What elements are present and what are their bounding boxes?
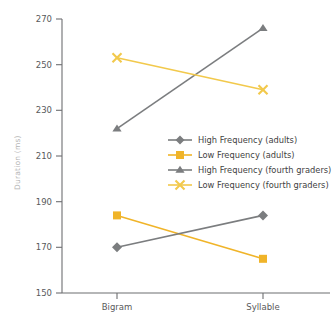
legend-marker-square-icon	[176, 151, 184, 159]
y-tick-label-210: 210	[36, 151, 52, 161]
y-tick-label-190: 190	[36, 197, 52, 207]
series-high-frequency-fourth-graders	[112, 24, 267, 132]
legend-label-lf-fourth: Low Frequency (fourth graders)	[198, 180, 329, 190]
legend-label-hf-fourth: High Frequency (fourth graders)	[198, 165, 331, 175]
series-line-hf-adults	[117, 215, 263, 247]
marker-diamond-syllable-hf-adults	[258, 210, 268, 220]
legend-marker-diamond-icon	[176, 136, 185, 145]
y-tick-label-150: 150	[36, 288, 52, 298]
series-low-frequency-fourth-graders	[113, 53, 268, 94]
legend-label-lf-adults: Low Frequency (adults)	[198, 150, 294, 160]
y-tick-label-170: 170	[36, 242, 52, 252]
legend-label-hf-adults: High Frequency (adults)	[198, 135, 297, 145]
x-label-bigram: Bigram	[102, 302, 133, 312]
marker-square-bigram-lf-adults	[113, 211, 121, 219]
x-label-syllable: Syllable	[246, 302, 279, 312]
chart-container: 270 250 230 210 190 170 150 Duration (ms…	[0, 0, 335, 321]
series-line-lf-adults	[117, 215, 263, 258]
chart-legend: High Frequency (adults) Low Frequency (a…	[168, 135, 331, 190]
series-line-hf-fourth	[117, 28, 263, 129]
y-tick-label-250: 250	[36, 60, 52, 70]
y-tick-label-270: 270	[36, 14, 52, 24]
series-high-frequency-adults	[112, 210, 268, 252]
series-line-lf-fourth	[117, 58, 263, 90]
marker-diamond-bigram-hf-adults	[112, 242, 122, 252]
legend-item-low-frequency-fourth-graders[interactable]: Low Frequency (fourth graders)	[168, 180, 329, 190]
y-axis-title: Duration (ms)	[13, 135, 22, 190]
marker-square-syllable-lf-adults	[259, 255, 267, 263]
line-chart: 270 250 230 210 190 170 150 Duration (ms…	[0, 0, 335, 321]
y-tick-label-230: 230	[36, 105, 52, 115]
legend-item-high-frequency-fourth-graders[interactable]: High Frequency (fourth graders)	[168, 165, 331, 175]
legend-item-high-frequency-adults[interactable]: High Frequency (adults)	[168, 135, 297, 145]
marker-triangle-syllable-hf-fourth	[258, 24, 267, 31]
legend-item-low-frequency-adults[interactable]: Low Frequency (adults)	[168, 150, 294, 160]
